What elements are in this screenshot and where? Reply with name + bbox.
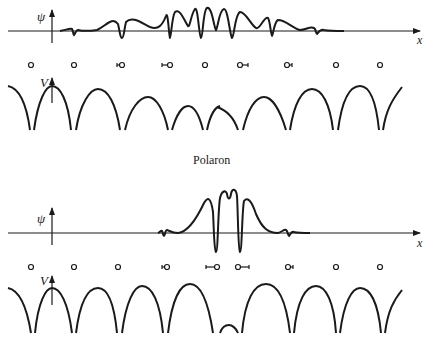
ion-displaced-right	[285, 63, 293, 68]
top-wavefunction	[60, 8, 344, 38]
top-ions-row	[29, 63, 383, 68]
ion-displaced-left	[162, 265, 170, 270]
ion	[72, 63, 77, 68]
ion-displaced-left	[117, 63, 125, 68]
ion	[72, 265, 77, 270]
ion	[334, 265, 339, 270]
ion	[203, 63, 208, 68]
ion	[378, 63, 383, 68]
bottom-potential-curve	[8, 284, 402, 333]
bottom-psi-label: ψ	[37, 212, 45, 225]
polaron-diagram	[0, 0, 434, 351]
bottom-ions-row	[29, 265, 383, 270]
top-psi-label: ψ	[37, 10, 45, 23]
ion	[116, 265, 121, 270]
top-potential-curve	[8, 86, 402, 130]
top-panel	[8, 8, 420, 130]
ion	[29, 265, 34, 270]
ion	[29, 63, 34, 68]
ion	[334, 63, 339, 68]
ion-displaced-left	[162, 63, 173, 68]
ion-displaced-left	[206, 265, 220, 270]
bottom-wavefunction	[158, 190, 310, 252]
ion-displaced-right	[236, 265, 250, 270]
top-x-label: x	[417, 34, 422, 46]
ion	[378, 265, 383, 270]
bottom-x-label: x	[417, 237, 422, 249]
ion-displaced-right	[286, 265, 294, 270]
figure-title: Polaron	[193, 154, 230, 166]
bottom-panel	[8, 190, 420, 333]
ion-displaced-right	[238, 63, 249, 68]
top-v-label: V	[40, 76, 48, 89]
bottom-v-label: V	[40, 274, 48, 287]
